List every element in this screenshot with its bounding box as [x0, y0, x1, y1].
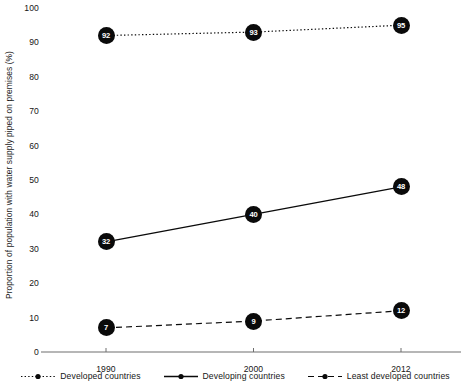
plot-area: 9293953240487912199020002012: [41, 8, 465, 352]
y-axis-tick-label: 80: [15, 72, 39, 82]
legend-swatch-icon: [163, 372, 199, 381]
chart-legend: Developed countriesDeveloping countriesL…: [0, 368, 470, 384]
data-point-marker: 12: [393, 302, 410, 319]
legend-label: Developed countries: [60, 371, 140, 381]
data-point-marker: 9: [245, 313, 262, 330]
legend-swatch-icon: [307, 372, 343, 381]
data-point-marker: 48: [393, 178, 410, 195]
y-axis-tick-label: 40: [15, 209, 39, 219]
data-point-marker: 40: [245, 206, 262, 223]
data-point-marker: 95: [393, 17, 410, 34]
series-lines: [106, 25, 401, 328]
y-axis-tick-labels: 0102030405060708090100: [12, 8, 39, 352]
legend-item[interactable]: Developed countries: [20, 371, 140, 381]
legend-swatch-icon: [20, 372, 56, 381]
data-point-marker: 93: [245, 24, 262, 41]
legend-label: Developing countries: [203, 371, 285, 381]
y-axis-tick-label: 70: [15, 106, 39, 116]
line-chart: Proportion of population with water supp…: [0, 0, 470, 384]
data-point-marker: 92: [98, 27, 115, 44]
data-point-marker: 7: [98, 319, 115, 336]
y-axis-tick-label: 0: [15, 347, 39, 357]
legend-item[interactable]: Developing countries: [163, 371, 285, 381]
y-axis-tick-label: 30: [15, 244, 39, 254]
y-axis-tick-label: 90: [15, 37, 39, 47]
legend-label: Least developed countries: [347, 371, 450, 381]
y-axis-tick-label: 50: [15, 175, 39, 185]
y-axis-tick-label: 60: [15, 141, 39, 151]
y-axis-tick-label: 100: [15, 3, 39, 13]
y-axis-tick-label: 20: [15, 278, 39, 288]
y-axis-tick-label: 10: [15, 313, 39, 323]
legend-item[interactable]: Least developed countries: [307, 371, 450, 381]
data-point-marker: 32: [98, 233, 115, 250]
